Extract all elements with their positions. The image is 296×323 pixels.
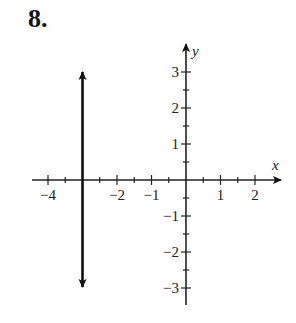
y-tick-label: −2 xyxy=(163,244,179,260)
y-tick-label: 2 xyxy=(172,100,180,116)
tick-labels: xy−4−2−112321−1−2−3 xyxy=(40,43,279,296)
y-axis-label: y xyxy=(190,43,199,59)
y-tick-label: 1 xyxy=(172,136,180,152)
x-tick-label: −1 xyxy=(144,187,160,203)
x-tick-label: 2 xyxy=(251,187,259,203)
axes xyxy=(32,44,281,305)
x-axis-label: x xyxy=(271,157,279,173)
x-tick-label: 1 xyxy=(217,187,225,203)
coordinate-plane: xy−4−2−112321−1−2−3 xyxy=(0,0,296,323)
x-tick-label: −4 xyxy=(40,187,56,203)
x-tick-label: −2 xyxy=(109,187,125,203)
y-tick-label: −1 xyxy=(163,208,179,224)
y-tick-label: −3 xyxy=(163,280,179,296)
y-tick-label: 3 xyxy=(172,64,180,80)
